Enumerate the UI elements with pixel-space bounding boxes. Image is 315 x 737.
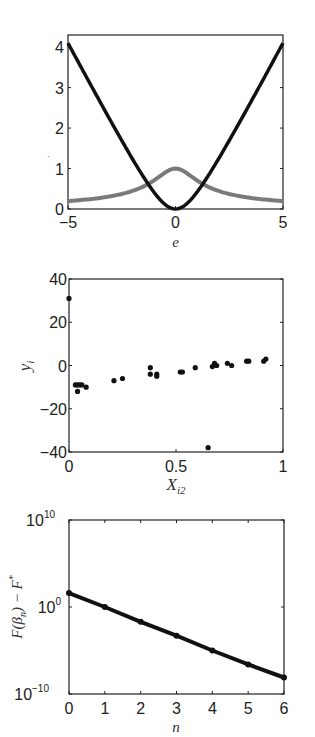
plot1-loss-curve <box>68 43 283 209</box>
plot1-xlabel: e <box>172 234 179 250</box>
scatter-point <box>180 369 185 374</box>
x-tick-label: 5 <box>279 214 288 231</box>
y-tick-label: 0 <box>58 358 67 375</box>
y-tick-label: 20 <box>49 314 67 331</box>
plot1-ylabel-mark: · <box>47 152 50 161</box>
x-tick-label: 0 <box>65 700 74 717</box>
scatter-point <box>148 372 153 377</box>
x-tick-label: 3 <box>172 700 181 717</box>
scatter-point <box>148 365 153 370</box>
y-tick-label: 10−10 <box>14 683 49 703</box>
plot2-xlabel: Xi2 <box>166 475 186 496</box>
plot2-axes-box <box>69 279 283 452</box>
x-tick-label: 1 <box>100 700 109 717</box>
x-tick-label: 4 <box>208 700 217 717</box>
line-marker <box>102 604 108 610</box>
scatter-point <box>263 356 268 361</box>
scatter-point <box>229 363 234 368</box>
plot3-ylabel: F(βn) − F* <box>7 575 28 639</box>
scatter-point <box>120 376 125 381</box>
x-tick-label: 0 <box>171 214 180 231</box>
y-tick-label: 1010 <box>26 509 55 529</box>
plot-convergence: 0123456101010010−10 n F(βn) − F* <box>7 509 289 735</box>
line-marker <box>245 661 251 667</box>
scatter-point <box>84 385 89 390</box>
scatter-point <box>154 374 159 379</box>
line-marker <box>66 590 72 596</box>
plot1-axes-box <box>68 35 283 209</box>
x-tick-label: 1 <box>279 458 288 475</box>
line-marker <box>281 674 287 680</box>
plot2-ylabel: yi <box>15 361 36 374</box>
plot-scatter: 00.5140200−20−40 Xi2 yi <box>15 271 288 496</box>
scatter-point <box>214 363 219 368</box>
y-tick-label: −40 <box>40 444 67 461</box>
x-tick-label: 6 <box>280 700 289 717</box>
y-tick-label: 100 <box>38 596 62 616</box>
scatter-point <box>66 296 71 301</box>
scatter-point <box>246 359 251 364</box>
y-tick-label: −20 <box>40 401 67 418</box>
y-tick-label: 2 <box>55 120 64 137</box>
x-tick-label: 5 <box>244 700 253 717</box>
scatter-point <box>75 389 80 394</box>
y-tick-label: 0 <box>55 201 64 218</box>
plot1-ticks: −50501234 <box>55 39 287 231</box>
line-marker <box>138 619 144 625</box>
figure: −50501234 · e 00.5140200−20−40 Xi2 yi 01… <box>0 0 315 737</box>
line-marker <box>174 633 180 639</box>
y-tick-label: 3 <box>55 80 64 97</box>
plot2-ticks: 00.5140200−20−40 <box>40 271 288 475</box>
plot3-xlabel: n <box>172 719 180 735</box>
scatter-point <box>193 365 198 370</box>
plot1-weight-curve <box>68 169 283 202</box>
y-tick-label: 4 <box>55 39 64 56</box>
scatter-point <box>111 378 116 383</box>
plot3-ticks: 0123456101010010−10 <box>14 509 288 717</box>
plot2-points <box>66 296 268 450</box>
y-tick-label: 40 <box>49 271 67 288</box>
plot-loss-weight: −50501234 · e <box>47 35 288 250</box>
y-tick-label: 1 <box>55 161 64 178</box>
x-tick-label: 0.5 <box>165 458 187 475</box>
line-marker <box>209 648 215 654</box>
x-tick-label: 2 <box>136 700 145 717</box>
scatter-point <box>206 445 211 450</box>
